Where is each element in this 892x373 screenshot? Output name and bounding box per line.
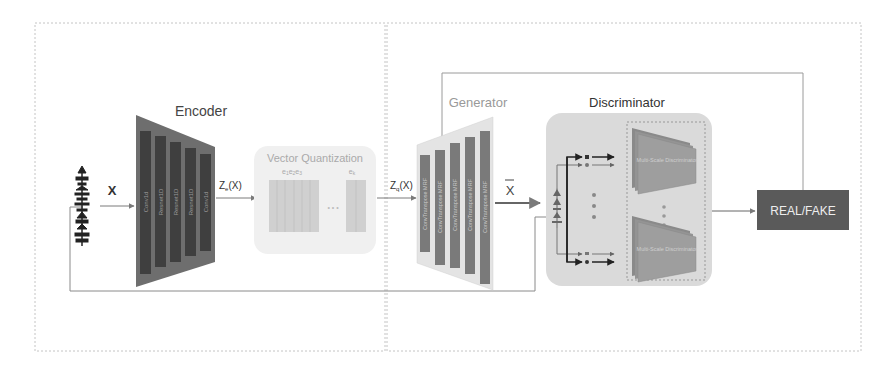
generator-output-label: X — [506, 183, 515, 198]
svg-text:Conv1d: Conv1d — [143, 192, 149, 213]
input-label: X — [108, 183, 117, 198]
svg-text:ConvTranspose MRF: ConvTranspose MRF — [452, 178, 458, 231]
vq-codebook-first-label: e1e2e3 — [282, 168, 302, 176]
vq-codebook-last-label: ek — [349, 168, 356, 176]
svg-text:Multi-Scale Discriminator: Multi-Scale Discriminator — [637, 157, 698, 163]
svg-text:ConvTranspose MRF: ConvTranspose MRF — [467, 178, 473, 231]
architecture-diagram: X Encoder Conv1d Resnet1D Resnet1D Resne… — [0, 0, 892, 373]
discriminator-title: Discriminator — [589, 95, 666, 110]
encoder-title: Encoder — [175, 103, 227, 119]
svg-text:Resnet1D: Resnet1D — [158, 188, 164, 215]
vq-title: Vector Quantization — [267, 152, 363, 164]
svg-text:Resnet1D: Resnet1D — [173, 188, 179, 215]
generator-title: Generator — [449, 95, 508, 110]
vq-output-label: Zq(X) — [390, 180, 413, 192]
waveform-icon — [75, 166, 89, 246]
vq-codebook-entries — [269, 180, 366, 232]
svg-text:Resnet1D: Resnet1D — [188, 188, 194, 215]
svg-text:Multi-Scale Discriminator: Multi-Scale Discriminator — [637, 246, 698, 252]
svg-text:ConvTranspose MRF: ConvTranspose MRF — [482, 180, 488, 233]
svg-text:ConvTranspose MRF: ConvTranspose MRF — [422, 177, 428, 230]
real-fake-label: REAL/FAKE — [770, 204, 835, 218]
svg-text:ConvTranspose MRF: ConvTranspose MRF — [437, 180, 443, 233]
encoder-output-label: Ze(X) — [219, 180, 242, 192]
svg-text:Conv1d: Conv1d — [203, 192, 209, 213]
vq-ellipsis: • • • — [327, 204, 339, 211]
